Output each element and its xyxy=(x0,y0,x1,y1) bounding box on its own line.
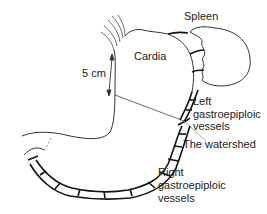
right-vessels-label-2: gastroepiploic xyxy=(158,179,226,191)
stomach-blood-supply-diagram: Spleen Cardia 5 cm Left gastroepiploic v… xyxy=(0,0,267,214)
pylorus-dashed-line xyxy=(44,138,51,152)
lesser-curvature xyxy=(22,50,115,139)
stomach-illustration xyxy=(0,0,267,214)
esophagus-strands xyxy=(101,15,125,50)
cardia-label: Cardia xyxy=(134,50,166,62)
distance-label: 5 cm xyxy=(82,67,106,79)
antrum-outline xyxy=(24,148,44,155)
spleen-label: Spleen xyxy=(184,10,218,22)
distance-arrow xyxy=(107,54,114,96)
spleen xyxy=(190,27,250,86)
watershed-label: The watershed xyxy=(183,138,256,150)
left-vessels-label-3: vessels xyxy=(193,120,230,132)
right-vessels-label-3: vessels xyxy=(158,192,195,204)
left-vessels-label-1: Left xyxy=(193,95,211,107)
left-vessels-label-2: gastroepiploic xyxy=(193,108,261,120)
watershed-crossline xyxy=(115,95,184,121)
right-vessels-label-1: Right xyxy=(158,166,184,178)
